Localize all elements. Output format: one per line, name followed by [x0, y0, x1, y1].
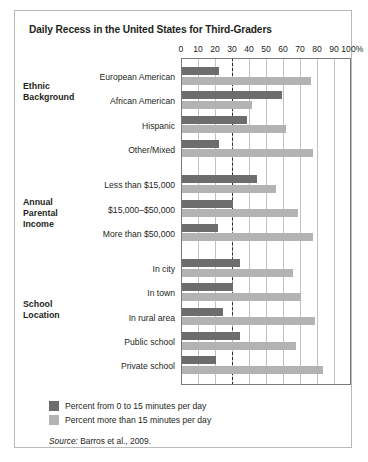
category-label: Other/Mixed [15, 145, 175, 155]
bar-row [181, 140, 351, 159]
bar-row [181, 200, 351, 219]
bar-short-recess [182, 308, 223, 316]
figure-panel: Daily Recess in the United States for Th… [14, 10, 352, 448]
legend-swatch [49, 401, 59, 411]
bar-row [181, 259, 351, 278]
x-tick-50: 50 [261, 44, 271, 54]
bar-long-recess [182, 77, 311, 85]
bar-long-recess [182, 101, 252, 109]
bar-row [181, 356, 351, 375]
legend-label: Percent from 0 to 15 minutes per day [65, 401, 206, 411]
bar-long-recess [182, 317, 315, 325]
bar-row [181, 67, 351, 86]
category-label: Private school [15, 361, 175, 371]
x-tick-60: 60 [278, 44, 288, 54]
bar-short-recess [182, 259, 240, 267]
source-note: Source: Barros et al., 2009. [49, 436, 151, 446]
bar-short-recess [182, 224, 218, 232]
bar-row [181, 175, 351, 194]
bar-long-recess [182, 149, 313, 157]
bar-short-recess [182, 283, 233, 291]
bar-short-recess [182, 67, 219, 75]
group-label-line: Background [23, 92, 74, 102]
group-label-line: Income [23, 219, 54, 229]
bar-long-recess [182, 185, 276, 193]
bar-row [181, 91, 351, 110]
bar-row [181, 283, 351, 302]
legend: Percent from 0 to 15 minutes per dayPerc… [49, 401, 211, 429]
source-citation: Barros et al., 2009. [78, 436, 151, 446]
category-label: Less than $15,000 [15, 180, 175, 190]
bar-short-recess [182, 116, 247, 124]
x-tick-0: 0 [179, 44, 184, 54]
x-tick-70: 70 [295, 44, 305, 54]
group-label-line: Ethnic [23, 81, 50, 91]
bar-short-recess [182, 175, 257, 183]
chart-title: Daily Recess in the United States for Th… [29, 24, 272, 35]
bar-short-recess [182, 140, 219, 148]
legend-item: Percent from 0 to 15 minutes per day [49, 401, 211, 411]
category-label: More than $50,000 [15, 229, 175, 239]
group-label-line: Location [23, 310, 60, 320]
category-label: Public school [15, 337, 175, 347]
group-label: EthnicBackground [23, 81, 74, 103]
bar-row [181, 332, 351, 351]
bar-short-recess [182, 200, 233, 208]
x-tick-40: 40 [244, 44, 254, 54]
bar-row [181, 308, 351, 327]
bar-short-recess [182, 91, 282, 99]
bar-long-recess [182, 233, 313, 241]
bar-long-recess [182, 293, 301, 301]
category-label: Hispanic [15, 121, 175, 131]
bar-short-recess [182, 332, 240, 340]
legend-swatch [49, 415, 59, 425]
x-tick-20: 20 [210, 44, 220, 54]
bar-row [181, 224, 351, 243]
group-label-line: School [23, 299, 52, 309]
x-axis-tick-labels: 0102030405060708090100% [181, 44, 367, 57]
x-tick-80: 80 [312, 44, 322, 54]
bar-long-recess [182, 366, 323, 374]
bar-short-recess [182, 356, 216, 364]
bar-long-recess [182, 125, 286, 133]
group-label-line: Annual [23, 197, 53, 207]
category-label: In city [15, 264, 175, 274]
legend-label: Percent more than 15 minutes per day [65, 415, 211, 425]
bar-row [181, 116, 351, 135]
bar-long-recess [182, 342, 296, 350]
group-label: AnnualParentalIncome [23, 197, 58, 230]
x-tick-90: 90 [329, 44, 339, 54]
group-label-line: Parental [23, 208, 58, 218]
plot-area [181, 58, 351, 385]
bar-long-recess [182, 269, 293, 277]
x-tick-100: 100% [341, 44, 363, 54]
bar-long-recess [182, 209, 298, 217]
x-tick-10: 10 [193, 44, 203, 54]
source-prefix: Source: [49, 436, 78, 446]
x-tick-30: 30 [227, 44, 237, 54]
legend-item: Percent more than 15 minutes per day [49, 415, 211, 425]
category-label: In town [15, 288, 175, 298]
group-label: SchoolLocation [23, 299, 60, 321]
